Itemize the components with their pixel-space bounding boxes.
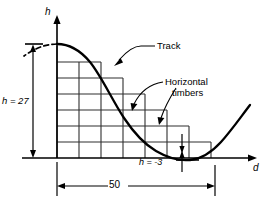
track-leader-line	[119, 46, 155, 60]
track-curve	[57, 44, 250, 160]
height-minus3-dimension	[176, 134, 199, 172]
span-50-label: 50	[109, 180, 120, 190]
h-axis-label: h	[45, 7, 51, 17]
horizontal-timbers-label-line2: timbers	[172, 88, 203, 98]
height-27-arrow-up	[30, 45, 36, 53]
d-axis-arrowhead	[248, 154, 257, 161]
timbers-leader-line-1	[134, 82, 163, 104]
height-27-arrow-down	[30, 150, 36, 158]
height-minus3-arrow-up	[179, 151, 184, 159]
h-axis-arrowhead	[53, 15, 60, 24]
timbers-leader-arrowhead-2	[158, 117, 165, 125]
d-axis-label: d	[253, 163, 259, 173]
height-minus3-label-text: h = -3	[139, 157, 162, 167]
horizontal-timbers-label-line1: Horizontal	[165, 77, 208, 87]
span-50-arrow-right	[207, 183, 215, 189]
track-curve-dashed-extension	[24, 44, 57, 56]
horizontal-timbers-grid	[57, 46, 211, 158]
track-profile-diagram	[0, 0, 271, 207]
height-27-label: h = 27	[2, 96, 29, 106]
height-minus3-label: h = -3	[139, 157, 162, 167]
track-label: Track	[157, 41, 180, 51]
height-27-label-text: h = 27	[2, 95, 29, 106]
span-50-arrow-left	[57, 183, 65, 189]
axes	[22, 20, 252, 158]
span-50-dimension	[57, 162, 215, 196]
track-leader-arrowhead	[114, 58, 123, 66]
